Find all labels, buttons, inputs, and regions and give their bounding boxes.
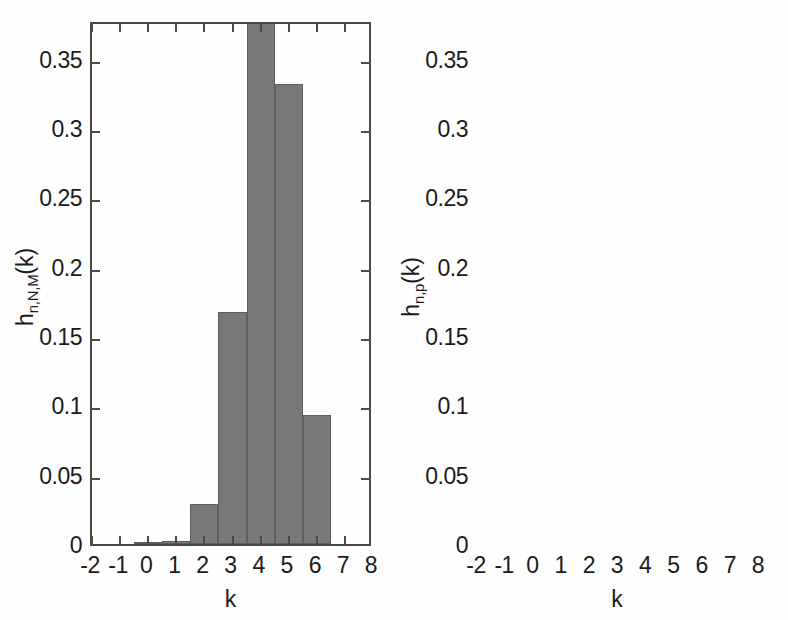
y-axis-title-argument: (k) xyxy=(398,257,424,284)
y-axis-tick-label: 0.15 xyxy=(425,326,468,349)
chart-panel-right: 00.050.10.150.20.250.30.35-2-1012345678k… xyxy=(394,0,788,620)
bar-series xyxy=(92,24,369,544)
x-axis-title: k xyxy=(90,588,371,611)
x-axis-tick xyxy=(260,24,262,32)
y-axis-title-subscript: n,N,M xyxy=(24,275,41,314)
y-axis-tick-label: 0.05 xyxy=(39,465,82,488)
x-axis-tick xyxy=(203,24,205,32)
x-axis-tick xyxy=(147,536,149,544)
y-axis-tick-label: 0.15 xyxy=(39,326,82,349)
y-axis-title: hn,p(k) xyxy=(400,187,430,387)
y-axis-title-base: h xyxy=(398,304,424,317)
x-axis-tick-label: 8 xyxy=(733,554,783,577)
y-axis-title-base: h xyxy=(12,313,38,326)
bar xyxy=(303,415,331,544)
x-axis-tick xyxy=(175,536,177,544)
y-axis-tick xyxy=(92,478,100,480)
x-axis-tick xyxy=(232,536,234,544)
y-axis-tick xyxy=(92,200,100,202)
y-axis-tick xyxy=(361,270,369,272)
y-axis-tick-label: 0.3 xyxy=(438,118,468,141)
plot-area xyxy=(90,22,371,546)
y-axis-tick xyxy=(361,408,369,410)
y-axis-tick-label: 0.35 xyxy=(425,49,468,72)
bar xyxy=(247,22,275,544)
x-axis-tick xyxy=(175,24,177,32)
x-axis-tick xyxy=(344,24,346,32)
x-axis-tick xyxy=(288,536,290,544)
x-axis-tick-label: 8 xyxy=(346,554,396,577)
y-axis-tick xyxy=(92,131,100,133)
x-axis-tick xyxy=(316,536,318,544)
y-axis-tick-label: 0.05 xyxy=(425,465,468,488)
x-axis-title: k xyxy=(476,588,758,611)
y-axis-tick-label: 0.1 xyxy=(438,395,468,418)
y-axis-tick-label: 0.1 xyxy=(52,395,82,418)
x-axis-tick xyxy=(147,24,149,32)
y-axis-tick-label: 0.3 xyxy=(52,118,82,141)
y-axis-tick-label: 0.35 xyxy=(39,49,82,72)
x-axis-tick xyxy=(316,24,318,32)
x-axis-tick xyxy=(91,536,93,544)
x-axis-tick xyxy=(288,24,290,32)
x-axis-tick xyxy=(260,536,262,544)
y-axis-tick xyxy=(361,200,369,202)
y-axis-title-argument: (k) xyxy=(12,248,38,275)
y-axis-tick xyxy=(361,339,369,341)
y-axis-title-subscript: n,p xyxy=(410,284,427,304)
y-axis-tick-label: 0.2 xyxy=(52,257,82,280)
x-axis-tick xyxy=(344,536,346,544)
x-axis-tick xyxy=(203,536,205,544)
y-axis-tick-label: 0.25 xyxy=(39,187,82,210)
chart-panel-left: 00.050.10.150.20.250.30.35-2-1012345678k… xyxy=(0,0,394,620)
y-axis-tick xyxy=(92,62,100,64)
bar xyxy=(218,312,246,544)
y-axis-tick-label: 0.2 xyxy=(438,257,468,280)
x-axis-tick xyxy=(232,24,234,32)
x-axis-tick xyxy=(91,24,93,32)
y-axis-tick xyxy=(361,62,369,64)
y-axis-title: hn,N,M(k) xyxy=(14,187,44,387)
y-axis-tick xyxy=(361,131,369,133)
x-axis-tick xyxy=(119,536,121,544)
bar xyxy=(275,84,303,545)
x-axis-tick xyxy=(119,24,121,32)
figure-canvas: 00.050.10.150.20.250.30.35-2-1012345678k… xyxy=(0,0,788,620)
y-axis-tick xyxy=(92,339,100,341)
y-axis-tick xyxy=(92,270,100,272)
y-axis-tick xyxy=(92,408,100,410)
y-axis-tick-label: 0.25 xyxy=(425,187,468,210)
y-axis-tick xyxy=(361,478,369,480)
